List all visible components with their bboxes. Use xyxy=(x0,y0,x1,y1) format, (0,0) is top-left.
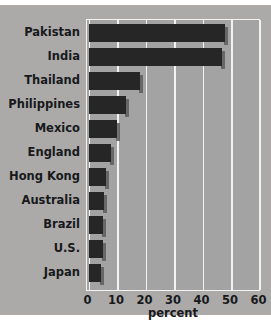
bar xyxy=(89,192,105,210)
x-tick-label: 20 xyxy=(133,293,157,307)
gridline xyxy=(260,20,262,290)
bar-row xyxy=(89,240,103,258)
category-label: Philippines xyxy=(0,95,80,113)
category-label: Brazil xyxy=(0,215,80,233)
bar xyxy=(89,96,126,114)
bar-series xyxy=(87,20,259,290)
bar xyxy=(89,72,140,90)
bar xyxy=(89,24,226,42)
bar xyxy=(89,264,102,282)
category-label: Japan xyxy=(0,263,80,281)
bar xyxy=(89,168,106,186)
category-label: Thailand xyxy=(0,71,80,89)
x-tick-label: 40 xyxy=(190,293,214,307)
category-label: India xyxy=(0,47,80,65)
y-axis-category-labels: PakistanIndiaThailandPhilippinesMexicoEn… xyxy=(0,23,80,287)
bar-row xyxy=(89,264,102,282)
x-tick-label: 0 xyxy=(76,293,100,307)
bar xyxy=(89,144,112,162)
bar-row xyxy=(89,144,112,162)
category-label: Mexico xyxy=(0,119,80,137)
category-label: Hong Kong xyxy=(0,167,80,185)
x-tick-label: 30 xyxy=(161,293,185,307)
bar xyxy=(89,120,118,138)
bar xyxy=(89,48,223,66)
x-tick-label: 10 xyxy=(104,293,128,307)
x-tick-label: 50 xyxy=(218,293,242,307)
category-label: England xyxy=(0,143,80,161)
bar xyxy=(89,216,103,234)
category-label: U.S. xyxy=(0,239,80,257)
category-label: Australia xyxy=(0,191,80,209)
bar-row xyxy=(89,192,105,210)
bar-row xyxy=(89,216,103,234)
bar-row xyxy=(89,48,223,66)
x-axis-label: percent xyxy=(86,306,260,320)
bar-row xyxy=(89,72,140,90)
bar-row xyxy=(89,96,126,114)
chart-figure: PakistanIndiaThailandPhilippinesMexicoEn… xyxy=(0,5,271,315)
bar-row xyxy=(89,168,106,186)
x-tick-label: 60 xyxy=(247,293,271,307)
category-label: Pakistan xyxy=(0,23,80,41)
bar-row xyxy=(89,24,226,42)
plot-area xyxy=(86,19,260,291)
bar xyxy=(89,240,103,258)
bar-row xyxy=(89,120,118,138)
